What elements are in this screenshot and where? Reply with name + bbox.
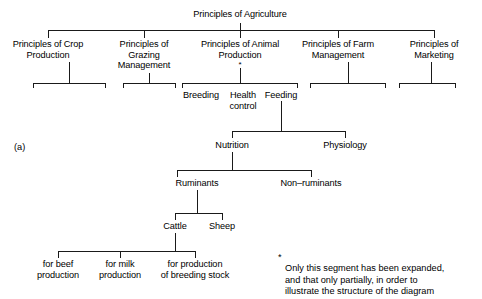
connector-level1-rail <box>48 30 434 31</box>
node-for-production-of-breeding-stock: for production of breeding stock <box>161 259 229 280</box>
footnote-block: *Only this segment has been expanded, an… <box>285 252 475 298</box>
connector-marketing-bracket <box>399 83 455 84</box>
connector-tick-animal <box>240 30 241 38</box>
node-non-ruminants: Non–ruminants <box>280 178 341 189</box>
connector-animal-bracket-right <box>297 83 298 88</box>
footnote-marker-asterisk: * <box>278 252 282 263</box>
connector-marketing-bracket-right <box>455 83 456 88</box>
connector-feeding-rail <box>232 131 345 132</box>
connector-tick-grazing <box>144 30 145 38</box>
connector-grazing-bracket-right <box>175 83 176 88</box>
node-feeding: Feeding <box>265 90 298 101</box>
connector-tick-marketing <box>434 30 435 38</box>
connector-farm-bracket <box>310 83 385 84</box>
connector-crop-bracket-right <box>105 83 106 88</box>
node-principles-of-grazing-management: Principles of Grazing Management <box>118 39 171 71</box>
connector-marketing-stem <box>431 62 432 83</box>
connector-tick-beef <box>58 251 59 258</box>
node-physiology: Physiology <box>323 140 366 151</box>
node-breeding: Breeding <box>183 90 219 101</box>
connector-tick-nutrition <box>232 131 233 138</box>
connector-tick-cattle <box>175 213 176 220</box>
connector-crop-bracket-left <box>33 83 34 88</box>
connector-crop-bracket <box>33 83 105 84</box>
connector-cattle-stem <box>175 233 176 251</box>
connector-tick-breeding-stock <box>195 251 196 258</box>
connector-animal-bracket <box>182 83 297 84</box>
connector-tick-ruminants <box>177 170 178 177</box>
connector-grazing-stem <box>149 73 150 83</box>
connector-nutrition-rail <box>177 170 311 171</box>
diagram-canvas: (a) Principles of Agriculture Principles… <box>0 0 482 299</box>
connector-crop-stem <box>69 62 70 83</box>
node-principles-of-agriculture: Principles of Agriculture <box>193 9 287 20</box>
node-sheep: Sheep <box>209 221 235 232</box>
connector-grazing-bracket <box>123 83 175 84</box>
connector-animal-bracket-left <box>182 83 183 88</box>
panel-label-a: (a) <box>14 142 25 152</box>
node-principles-of-crop-production: Principles of Crop Production <box>13 39 84 60</box>
connector-nutrition-stem <box>232 152 233 170</box>
connector-farm-bracket-left <box>310 83 311 88</box>
connector-tick-physiology <box>345 131 346 138</box>
connector-animal-stem <box>240 68 241 83</box>
node-health-control: Health control <box>230 90 257 111</box>
connector-ruminants-rail <box>175 213 222 214</box>
node-principles-of-animal-production: Principles of Animal Production <box>201 39 279 60</box>
node-nutrition: Nutrition <box>215 140 248 151</box>
connector-marketing-bracket-left <box>399 83 400 88</box>
node-principles-of-farm-management: Principles of Farm Management <box>302 39 374 60</box>
connector-tick-non-ruminants <box>311 170 312 177</box>
connector-ruminants-stem <box>197 190 198 213</box>
connector-tick-crop <box>48 30 49 38</box>
connector-tick-farm <box>338 30 339 38</box>
connector-tick-milk <box>120 251 121 258</box>
connector-feeding-stem <box>281 101 282 131</box>
node-cattle: Cattle <box>163 221 186 232</box>
node-for-milk-production: for milk production <box>99 259 141 280</box>
node-principles-of-marketing: Principles of Marketing <box>410 39 459 60</box>
node-for-beef-production: for beef production <box>37 259 79 280</box>
connector-cattle-rail <box>58 251 195 252</box>
connector-root-stem <box>240 23 241 30</box>
connector-farm-bracket-right <box>385 83 386 88</box>
connector-grazing-bracket-left <box>123 83 124 88</box>
footnote-text: Only this segment has been expanded, and… <box>285 263 444 296</box>
connector-tick-sheep <box>222 213 223 220</box>
connector-farm-stem <box>348 62 349 83</box>
node-ruminants: Ruminants <box>175 178 218 189</box>
